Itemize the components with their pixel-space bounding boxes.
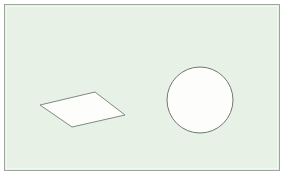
circle-shape[interactable]	[167, 67, 233, 133]
scene-canvas	[0, 0, 284, 177]
canvas-background	[4, 4, 280, 171]
scene-svg	[0, 0, 284, 177]
